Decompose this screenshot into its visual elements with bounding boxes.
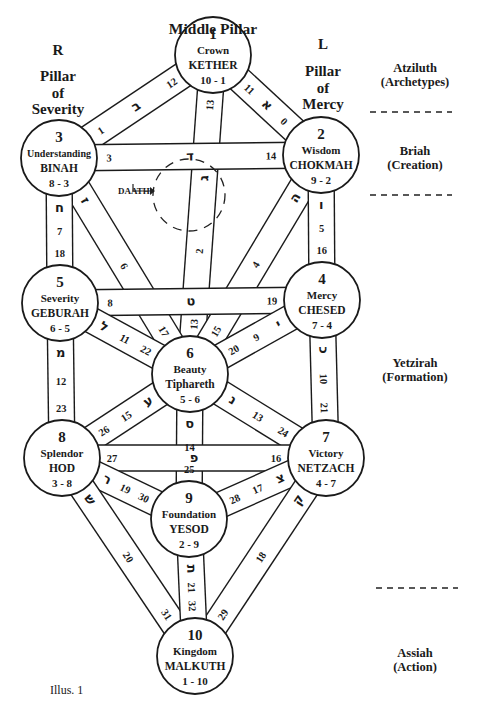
path-number: 16 <box>316 245 327 256</box>
middle-pillar-heading: Middle Pillar <box>142 20 284 37</box>
illustration-caption: Illus. 1 <box>50 683 83 698</box>
sephirah-ratio: 5 - 6 <box>180 393 201 405</box>
hebrew-letter: מ <box>56 345 65 360</box>
path-number: 25 <box>184 464 195 475</box>
sephirah-title: Splendor <box>41 447 84 459</box>
path-number: 27 <box>107 453 118 464</box>
path-number: 19 <box>267 296 278 307</box>
sephirah-name: GEBURAH <box>31 307 89 319</box>
sephirah-name: CHOKMAH <box>289 159 352 171</box>
pillar-of-mercy-line3: Mercy <box>283 96 363 113</box>
world-yetzirah-sub: (Formation) <box>365 371 465 385</box>
path-number: 2 <box>194 248 205 254</box>
sephirah-title: Victory <box>308 447 344 459</box>
sephirah-title: Beauty <box>174 363 208 375</box>
hebrew-letter: ס <box>185 416 194 431</box>
world-yetzirah-name: Yetzirah <box>392 356 437 370</box>
world-atziluth-sub: (Archetypes) <box>365 76 465 90</box>
world-assiah-name: Assiah <box>397 646 432 660</box>
sephirah-hod: 8SplendorHOD3 - 8 <box>24 420 100 496</box>
world-assiah-sub: (Action) <box>365 661 465 675</box>
path-number: 3 <box>106 152 111 163</box>
path-number: 10 <box>318 374 329 385</box>
sephirah-number: 6 <box>186 345 194 361</box>
path-number: 12 <box>56 376 67 387</box>
hebrew-letter: ת <box>184 564 199 574</box>
sephirah-title: Kingdom <box>173 645 217 657</box>
sephirah-ratio: 6 - 5 <box>50 322 71 334</box>
sephirah-number: 9 <box>185 490 193 506</box>
pillar-of-mercy-line2: of <box>283 80 363 97</box>
sephirah-title: Crown <box>197 44 229 56</box>
path-number: 21 <box>319 403 330 414</box>
path-number: 8 <box>107 297 112 308</box>
sephirah-name: HOD <box>49 462 75 474</box>
sephirah-title: Wisdom <box>302 144 341 156</box>
pillar-of-severity-line3: Severity <box>18 101 98 118</box>
sephirah-ratio: 2 - 9 <box>179 538 200 550</box>
sephirah-ratio: 1 - 10 <box>182 675 208 687</box>
daath-label: DAATH <box>118 186 150 196</box>
sephirah-name: KETHER <box>188 59 238 71</box>
sephirah-chokmah: 2WisdomCHOKMAH9 - 2 <box>283 117 359 193</box>
path-number: 21 <box>186 582 197 593</box>
hebrew-letter: ח <box>55 200 64 215</box>
sephirah-name: CHESED <box>298 304 345 316</box>
sephirah-ratio: 7 - 4 <box>312 319 333 331</box>
sephirah-name: YESOD <box>169 523 209 535</box>
world-briah-name: Briah <box>400 144 431 158</box>
sephirah-name: Tiphareth <box>165 378 215 391</box>
world-briah: Briah (Creation) <box>365 145 465 173</box>
sephirah-malkuth: 10KingdomMALKUTH1 - 10 <box>157 618 233 694</box>
sephirah-title: Understanding <box>27 148 91 159</box>
sephirah-binah: 3UnderstandingBINAH8 - 3 <box>21 120 97 196</box>
hebrew-letter: כ <box>316 346 331 354</box>
path-number: 14 <box>266 151 277 162</box>
pillar-of-severity-line1: Pillar <box>18 68 98 85</box>
hebrew-letter: פ <box>190 450 199 465</box>
sephirah-number: 3 <box>55 129 63 145</box>
hebrew-letter: ו <box>319 197 323 212</box>
sephirah-chesed: 4MercyCHESED7 - 4 <box>284 262 360 338</box>
left-pillar-letter: L <box>303 36 343 53</box>
sephirah-netzach: 7VictoryNETZACH4 - 7 <box>288 420 364 496</box>
sephirah-ratio: 3 - 8 <box>52 477 73 489</box>
world-dividers <box>370 112 458 588</box>
sephirah-name: MALKUTH <box>165 660 226 672</box>
path-number: 5 <box>319 223 324 234</box>
world-assiah: Assiah (Action) <box>365 647 465 675</box>
sephirah-number: 10 <box>188 627 203 643</box>
sephirah-number: 5 <box>56 274 64 290</box>
sephirah-name: BINAH <box>40 162 78 174</box>
hebrew-letter: ד <box>186 148 194 163</box>
sephirah-geburah: 5SeverityGEBURAH6 - 5 <box>22 265 98 341</box>
pillar-of-mercy-line1: Pillar <box>283 63 363 80</box>
world-atziluth: Atziluth (Archetypes) <box>365 62 465 90</box>
path-number: 13 <box>204 99 216 110</box>
world-briah-sub: (Creation) <box>365 159 465 173</box>
right-pillar-letter: R <box>38 42 78 59</box>
sephirah-number: 8 <box>58 429 66 445</box>
sephirah-tiphareth: 6BeautyTiphareth5 - 6 <box>152 336 228 412</box>
sephirah-ratio: 10 - 1 <box>200 74 226 86</box>
sephirah-ratio: 9 - 2 <box>311 174 332 186</box>
path-number: 7 <box>57 226 62 237</box>
path-number: 32 <box>187 601 198 612</box>
sephirah-name: NETZACH <box>298 462 355 474</box>
sephirah-number: 2 <box>317 126 325 142</box>
path-number: 16 <box>271 453 282 464</box>
path-number: 13 <box>188 319 200 330</box>
sephirah-ratio: 4 - 7 <box>316 477 337 489</box>
sephirah-ratio: 8 - 3 <box>49 177 70 189</box>
sephirah-number: 4 <box>318 271 326 287</box>
path-number: 23 <box>56 403 67 414</box>
sephirah-yesod: 9FoundationYESOD2 - 9 <box>151 481 227 557</box>
hebrew-letter: ט <box>186 293 195 308</box>
world-yetzirah: Yetzirah (Formation) <box>365 357 465 385</box>
world-atziluth-name: Atziluth <box>393 61 437 75</box>
sephirah-title: Foundation <box>162 508 216 520</box>
sephirah-number: 7 <box>322 429 330 445</box>
sephirah-title: Severity <box>41 292 80 304</box>
path-number: 18 <box>54 248 65 259</box>
sephirah-title: Mercy <box>307 289 338 301</box>
